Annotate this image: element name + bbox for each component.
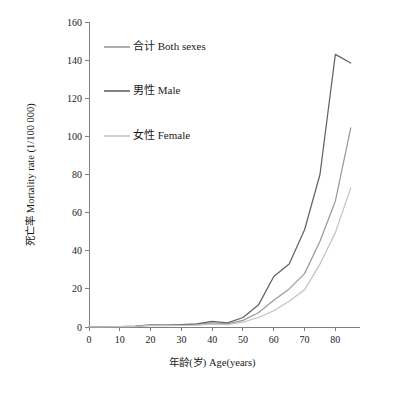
y-axis-tick-label: 40 <box>72 245 82 256</box>
x-axis-tick-label: 80 <box>330 334 340 345</box>
x-axis-tick-label: 70 <box>300 334 310 345</box>
x-axis-tick-label: 50 <box>238 334 248 345</box>
series-line-both-sexes <box>89 128 351 327</box>
x-axis-tick-label: 40 <box>207 334 217 345</box>
x-axis-tick-label: 0 <box>87 334 92 345</box>
y-axis-tick-label: 60 <box>72 207 82 218</box>
y-axis-title: 死亡率 Mortality rate (1/100 000) <box>24 103 37 246</box>
y-axis-tick-label: 100 <box>67 131 82 142</box>
legend-label-male: 男性 Male <box>133 83 180 96</box>
x-axis-tick-label: 10 <box>115 334 125 345</box>
x-axis-tick-label: 60 <box>269 334 279 345</box>
series-line-female <box>89 188 351 327</box>
y-axis-tick-label: 0 <box>77 322 82 333</box>
y-axis-tick-label: 140 <box>67 55 82 66</box>
x-axis-tick-label: 30 <box>176 334 186 345</box>
x-axis-title: 年龄(岁) Age(years) <box>169 356 256 369</box>
x-axis-tick-label: 20 <box>146 334 156 345</box>
chart-figure: 02040608010012014016001020304050607080年龄… <box>0 0 395 397</box>
y-axis-tick-label: 20 <box>72 283 82 294</box>
y-axis-tick-label: 80 <box>72 169 82 180</box>
y-axis-tick-label: 120 <box>67 93 82 104</box>
series-line-male <box>89 54 351 326</box>
legend-label-female: 女性 Female <box>133 128 190 141</box>
mortality-rate-line-chart: 02040608010012014016001020304050607080年龄… <box>0 0 395 397</box>
legend-label-both-sexes: 合计 Both sexes <box>133 39 206 52</box>
y-axis-tick-label: 160 <box>67 17 82 28</box>
